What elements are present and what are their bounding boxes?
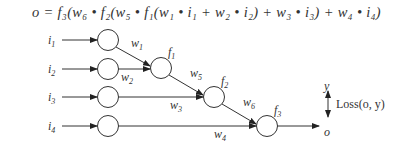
weight-label-w3: w3 bbox=[170, 98, 182, 114]
input-node-4 bbox=[98, 116, 119, 137]
function-label-f2: f2 bbox=[221, 74, 228, 90]
weight-label-w1: w1 bbox=[131, 36, 143, 52]
input-label-3: i3 bbox=[48, 90, 55, 106]
function-label-f3: f3 bbox=[274, 103, 281, 119]
output-label-o: o bbox=[324, 125, 330, 139]
weight-label-w5: w5 bbox=[190, 66, 202, 82]
weight-label-w2: w2 bbox=[121, 70, 133, 86]
function-node-f3 bbox=[257, 116, 278, 137]
input-label-4: i4 bbox=[48, 119, 55, 135]
target-label-y: y bbox=[323, 79, 330, 93]
input-label-2: i2 bbox=[48, 62, 55, 78]
function-label-f1: f1 bbox=[168, 45, 175, 61]
input-node-1 bbox=[98, 30, 119, 51]
input-label-1: i1 bbox=[48, 33, 55, 49]
input-node-3 bbox=[98, 87, 119, 108]
loss-label: Loss(o, y) bbox=[336, 97, 385, 111]
weight-label-w6: w6 bbox=[243, 95, 255, 111]
weight-label-w4: w4 bbox=[214, 127, 226, 143]
function-node-f2 bbox=[204, 87, 225, 108]
network-diagram: i1 i2 i3 i4 f1 f2 f3 w1 w2 w3 w4 w5 w6 y… bbox=[0, 0, 413, 148]
function-node-f1 bbox=[151, 58, 172, 79]
input-node-2 bbox=[98, 59, 119, 80]
